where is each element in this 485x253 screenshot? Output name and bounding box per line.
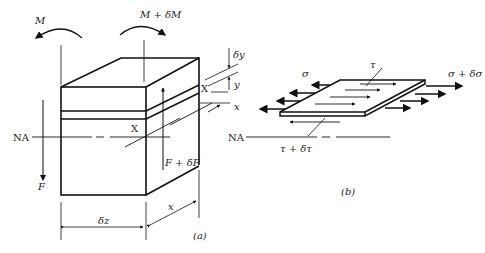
caption-b: (b) <box>341 186 355 197</box>
width-dimension-label: δz <box>98 215 110 226</box>
beam-element-diagram: M M + δM F F + δF NA X X δy y x δz x (a) <box>0 0 485 253</box>
neutral-axis-label-b: NA <box>228 132 245 143</box>
force-right-label: F + δF <box>164 157 201 168</box>
depth-dimension-label: x <box>168 201 174 212</box>
sigma-label: σ <box>302 68 310 79</box>
tau-plus-label: τ + δτ <box>280 143 312 154</box>
moment-right-label: M + δM <box>139 9 182 20</box>
delta-y-label: δy <box>233 49 245 60</box>
figure-b <box>246 68 462 137</box>
neutral-axis-label-a: NA <box>13 132 30 143</box>
moment-right-arrow-icon <box>120 27 165 36</box>
section-mark-top: X <box>201 83 209 94</box>
sigma-plus-label: σ + δσ <box>448 68 484 79</box>
force-left-label: F <box>37 181 46 192</box>
section-mark-mid: X <box>131 123 139 134</box>
x-axis-label: x <box>234 101 240 112</box>
moment-left-label: M <box>34 15 46 26</box>
caption-a: (a) <box>193 230 207 241</box>
y-label: y <box>233 79 240 90</box>
tau-label: τ <box>370 59 376 70</box>
moment-left-arrow-icon <box>36 29 82 38</box>
